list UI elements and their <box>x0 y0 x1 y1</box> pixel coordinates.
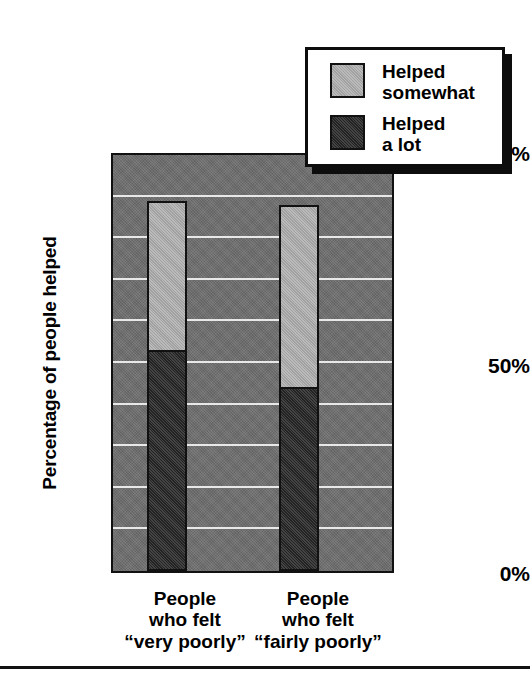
cat-1-rest: poorly” <box>309 631 382 652</box>
cat-0-emphasis: very <box>134 631 173 652</box>
x-category-label-1: People who felt “fairly poorly” <box>238 588 398 652</box>
bar-1-segment-helped-somewhat <box>281 207 317 387</box>
chart-figure: Percentage of people helped 100% 50% 0% … <box>0 0 530 682</box>
legend-entry-helped-somewhat: Helped somewhat <box>330 61 502 104</box>
y-axis-title: Percentage of people helped <box>39 183 61 543</box>
cat-0-quote-open: “ <box>124 631 134 652</box>
legend-0-line-2: somewhat <box>382 82 475 103</box>
gridline-90 <box>113 195 392 197</box>
bar-0-segment-helped-a-lot <box>149 350 185 569</box>
legend-label-helped-a-lot: Helped a lot <box>382 113 445 156</box>
bar-1-segment-helped-a-lot <box>281 387 317 569</box>
cat-1-line-1: People <box>238 588 398 609</box>
legend-entry-helped-a-lot: Helped a lot <box>330 113 502 156</box>
bar-1 <box>279 205 319 571</box>
cat-1-line-2: who felt <box>238 609 398 630</box>
legend-1-line-1: Helped <box>382 113 445 134</box>
legend-swatch-dark-gray-icon <box>330 115 365 150</box>
bar-0 <box>147 201 187 571</box>
bottom-divider <box>0 666 530 669</box>
cat-0-rest: poorly” <box>173 631 246 652</box>
cat-1-quote-open: “ <box>254 631 264 652</box>
legend-0-line-1: Helped <box>382 61 475 82</box>
cat-1-emphasis: fairly <box>264 631 309 652</box>
plot-area <box>111 153 394 573</box>
legend-label-helped-somewhat: Helped somewhat <box>382 61 475 104</box>
cat-1-line-3: “fairly poorly” <box>238 631 398 652</box>
bar-0-segment-helped-somewhat <box>149 203 185 350</box>
legend-swatch-light-gray-icon <box>330 63 365 98</box>
legend-box: Helped somewhat Helped a lot <box>305 47 505 167</box>
legend-1-line-2: a lot <box>382 134 445 155</box>
y-tick-label-50: 50% <box>448 355 530 376</box>
y-tick-label-0: 0% <box>448 563 530 584</box>
